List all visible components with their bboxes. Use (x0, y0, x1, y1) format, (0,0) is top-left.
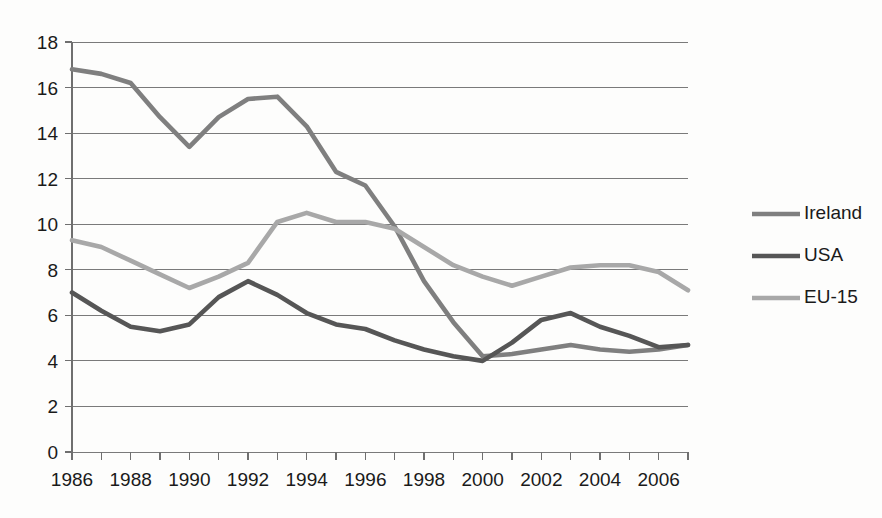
x-tick-label: 1994 (286, 469, 329, 490)
gridlines (72, 42, 688, 452)
x-tick-label: 1992 (227, 469, 269, 490)
y-tick-label: 16 (37, 78, 58, 99)
x-axis-tick-labels: 1986198819901992199419961998200020022004… (51, 469, 680, 490)
legend-label-usa: USA (804, 244, 843, 265)
x-tick-label: 1988 (110, 469, 152, 490)
x-tick-label: 1998 (403, 469, 445, 490)
y-tick-label: 10 (37, 214, 58, 235)
y-tick-label: 8 (47, 260, 58, 281)
x-tick-label: 1986 (51, 469, 93, 490)
y-tick-label: 18 (37, 32, 58, 53)
line-chart-figure: 024681012141618 198619881990199219941996… (0, 0, 882, 518)
y-tick-label: 2 (47, 396, 58, 417)
x-tick-label: 1990 (168, 469, 210, 490)
x-tick-label: 2004 (579, 469, 622, 490)
y-tick-label: 12 (37, 169, 58, 190)
x-tick-label: 1996 (344, 469, 386, 490)
y-tick-label: 14 (37, 123, 59, 144)
x-tick-label: 2000 (462, 469, 504, 490)
chart-legend: IrelandUSAEU-15 (752, 202, 862, 307)
x-tick-label: 2002 (520, 469, 562, 490)
y-tick-label: 4 (47, 351, 58, 372)
y-tick-label: 6 (47, 305, 58, 326)
series-line-ireland (72, 69, 688, 356)
x-axis-tick-marks (72, 452, 688, 460)
legend-label-eu-15: EU-15 (804, 286, 858, 307)
chart-canvas: 024681012141618 198619881990199219941996… (0, 0, 882, 518)
data-series-lines (72, 69, 688, 361)
legend-label-ireland: Ireland (804, 202, 862, 223)
axes (65, 42, 72, 452)
y-axis-tick-labels: 024681012141618 (37, 32, 59, 463)
x-tick-label: 2006 (638, 469, 680, 490)
y-tick-label: 0 (47, 442, 58, 463)
